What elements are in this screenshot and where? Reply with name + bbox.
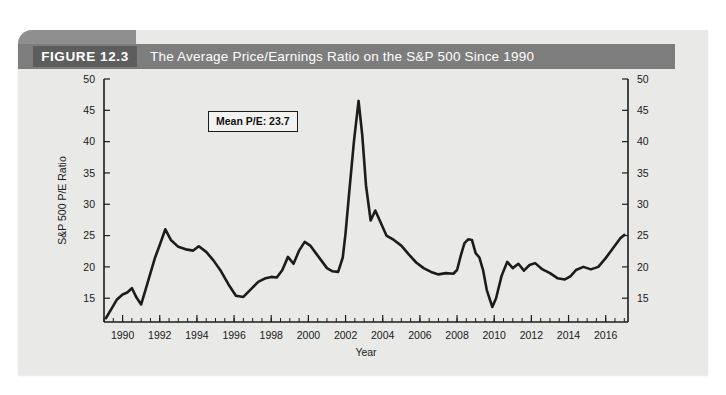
svg-text:45: 45 xyxy=(83,104,95,116)
svg-text:20: 20 xyxy=(83,261,95,273)
svg-text:2012: 2012 xyxy=(520,329,544,341)
svg-text:15: 15 xyxy=(83,292,95,304)
mean-pe-annotation: Mean P/E: 23.7 xyxy=(208,111,298,132)
svg-text:35: 35 xyxy=(83,167,95,179)
svg-text:1994: 1994 xyxy=(185,329,209,341)
svg-text:1990: 1990 xyxy=(111,329,135,341)
svg-text:50: 50 xyxy=(637,73,649,85)
svg-text:2004: 2004 xyxy=(371,329,395,341)
svg-text:25: 25 xyxy=(83,229,95,241)
svg-text:15: 15 xyxy=(637,292,649,304)
svg-text:2008: 2008 xyxy=(445,329,469,341)
svg-text:1998: 1998 xyxy=(260,329,284,341)
x-axis: 1990199219941996199820002002200420062008… xyxy=(104,315,628,341)
svg-text:2014: 2014 xyxy=(557,329,581,341)
svg-text:S&P 500 P/E Ratio: S&P 500 P/E Ratio xyxy=(56,156,68,245)
y-axis-right: 1520253035404550 xyxy=(622,73,649,322)
figure-panel: FIGURE 12.3 The Average Price/Earnings R… xyxy=(18,30,708,375)
data-series-pe-ratio xyxy=(106,101,624,318)
chart-plot-area: 1520253035404550 1520253035404550 199019… xyxy=(18,30,708,375)
svg-text:Year: Year xyxy=(355,346,377,358)
svg-text:40: 40 xyxy=(83,135,95,147)
svg-text:2002: 2002 xyxy=(334,329,358,341)
svg-text:2000: 2000 xyxy=(297,329,321,341)
svg-text:45: 45 xyxy=(637,104,649,116)
svg-text:35: 35 xyxy=(637,167,649,179)
svg-text:50: 50 xyxy=(83,73,95,85)
svg-text:25: 25 xyxy=(637,229,649,241)
svg-text:1992: 1992 xyxy=(148,329,172,341)
line-chart-svg: 1520253035404550 1520253035404550 199019… xyxy=(18,30,708,375)
svg-text:30: 30 xyxy=(83,198,95,210)
svg-text:2010: 2010 xyxy=(483,329,507,341)
y-axis-left: 1520253035404550 xyxy=(83,73,110,322)
svg-text:2016: 2016 xyxy=(594,329,618,341)
svg-text:2006: 2006 xyxy=(408,329,432,341)
svg-text:20: 20 xyxy=(637,261,649,273)
svg-text:30: 30 xyxy=(637,198,649,210)
svg-text:1996: 1996 xyxy=(222,329,246,341)
svg-text:40: 40 xyxy=(637,135,649,147)
